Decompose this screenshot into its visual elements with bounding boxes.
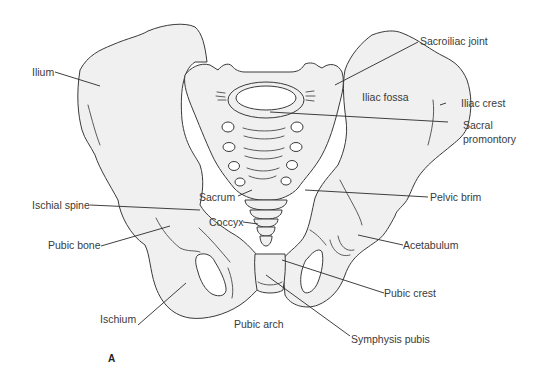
label-sacral-promontory-1: Sacral <box>463 119 493 131</box>
label-symphysis-pubis: Symphysis pubis <box>351 333 430 345</box>
sacrum <box>185 63 344 200</box>
panel-label: A <box>108 353 115 364</box>
label-ischium: Ischium <box>100 313 136 325</box>
label-pubic-arch: Pubic arch <box>234 318 284 330</box>
label-acetabulum: Acetabulum <box>403 239 459 251</box>
label-iliac-crest: Iliac crest <box>461 97 505 109</box>
label-ilium: Ilium <box>32 66 54 78</box>
label-iliac-fossa: Iliac fossa <box>362 91 409 103</box>
label-sacroiliac-joint: Sacroiliac joint <box>420 35 488 47</box>
label-coccyx: Coccyx <box>209 216 244 228</box>
label-ischial-spine: Ischial spine <box>32 199 90 211</box>
label-pelvic-brim: Pelvic brim <box>430 191 482 203</box>
label-sacrum: Sacrum <box>199 191 235 203</box>
symphysis-pubis <box>255 254 286 293</box>
pelvis-diagram: Ilium Sacroiliac joint Iliac fossa Iliac… <box>0 0 542 380</box>
label-sacral-promontory-2: promontory <box>463 133 517 145</box>
label-pubic-bone: Pubic bone <box>48 239 101 251</box>
label-pubic-crest: Pubic crest <box>384 287 436 299</box>
